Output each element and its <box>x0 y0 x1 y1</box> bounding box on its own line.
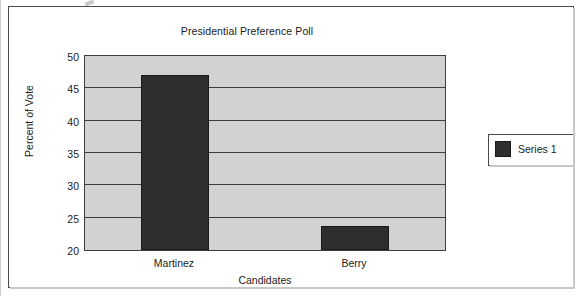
legend-label: Series 1 <box>518 143 557 155</box>
x-axis-title: Candidates <box>84 274 446 286</box>
x-axis-tick-label: Martinez <box>119 257 229 269</box>
gridline <box>85 87 445 88</box>
gridline <box>85 152 445 153</box>
chart-title: Presidential Preference Poll <box>9 25 485 37</box>
x-axis-tick-label: Berry <box>299 257 409 269</box>
y-axis-tick-label: 25 <box>53 214 79 224</box>
y-axis-tick-label: 30 <box>53 181 79 191</box>
y-axis-tick-labels: 20253035404550 <box>49 55 79 251</box>
legend-swatch-icon <box>495 141 511 157</box>
gridline <box>85 217 445 218</box>
y-axis-tick-label: 20 <box>53 246 79 256</box>
legend: Series 1 <box>488 134 574 166</box>
legend-entry-series-1: Series 1 <box>495 141 557 157</box>
y-axis-title: Percent of Vote <box>23 75 35 167</box>
y-axis-tick-label: 45 <box>53 84 79 94</box>
scan-edge-artifact <box>0 0 1 296</box>
bar-berry[interactable] <box>321 226 389 250</box>
y-axis-tick-label: 50 <box>53 52 79 62</box>
plot-area <box>84 55 446 251</box>
gridline <box>85 120 445 121</box>
chart-frame: Presidential Preference Poll Percent of … <box>8 6 574 288</box>
y-axis-tick-label: 35 <box>53 149 79 159</box>
y-axis-tick-label: 40 <box>53 117 79 127</box>
gridline <box>85 184 445 185</box>
bar-martinez[interactable] <box>141 75 209 250</box>
